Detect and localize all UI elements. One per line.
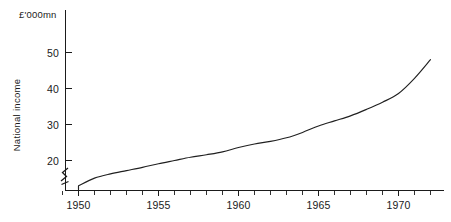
x-tick-label-1970: 1970 [386, 199, 410, 211]
x-tick-label-1950: 1950 [66, 199, 90, 211]
x-tick-label-1955: 1955 [146, 199, 170, 211]
y-tick-label-20: 20 [47, 155, 59, 167]
y-axis-break-icon [61, 168, 68, 181]
chart-figure: £'000mn National income 50 40 30 20 [0, 0, 451, 222]
x-axis-minor-ticks [63, 191, 431, 196]
y-tick-label-30: 30 [47, 119, 59, 131]
y-axis-title: National income [11, 79, 22, 152]
y-axis-ticks [66, 53, 72, 161]
y-tick-label-50: 50 [47, 47, 59, 59]
y-tick-label-40: 40 [47, 83, 59, 95]
x-axis-tick-labels: 1950 1955 1960 1965 1970 [66, 199, 410, 211]
y-axis-unit-label: £'000mn [19, 9, 57, 20]
national-income-line [79, 60, 431, 190]
x-tick-label-1960: 1960 [226, 199, 250, 211]
y-axis-tick-labels: 50 40 30 20 [47, 47, 59, 167]
chart-svg: £'000mn National income 50 40 30 20 [0, 0, 451, 222]
x-tick-label-1965: 1965 [306, 199, 330, 211]
